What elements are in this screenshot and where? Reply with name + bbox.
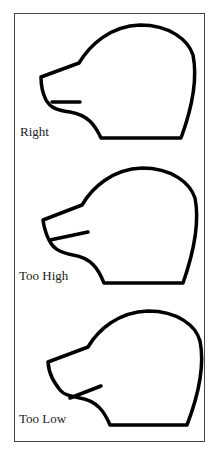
- dog-head-too-high: [43, 168, 197, 283]
- label-too-low: Too Low: [19, 411, 66, 427]
- mouth-line-too-low: [70, 386, 101, 398]
- mouth-line-too-high: [50, 232, 88, 240]
- label-right: Right: [20, 124, 49, 140]
- dog-head-right: [41, 25, 195, 138]
- dog-head-diagrams: [0, 0, 217, 451]
- dog-head-too-low: [48, 311, 202, 425]
- label-too-high: Too High: [19, 268, 68, 284]
